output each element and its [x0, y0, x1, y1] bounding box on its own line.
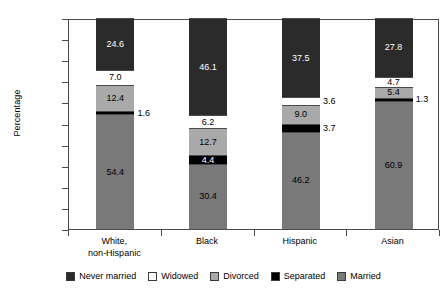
legend-label: Widowed: [161, 272, 198, 281]
bar-3[interactable]: 37.53.69.03.746.2: [282, 18, 320, 229]
legend-item-3[interactable]: Divorced: [210, 272, 259, 281]
bar-segment-value: 46.2: [292, 176, 310, 185]
bar-segment-value: 12.4: [107, 94, 125, 103]
bar-segment[interactable]: 6.2: [189, 115, 227, 128]
bar-segment-value: 6.2: [202, 118, 215, 127]
chart-legend: Never marriedWidowedDivorcedSeparatedMar…: [0, 272, 447, 281]
bar-segment[interactable]: 46.1: [189, 18, 227, 115]
legend-swatch-icon: [271, 272, 280, 281]
legend-swatch-icon: [337, 272, 346, 281]
bar-segment-value: 24.6: [107, 40, 125, 49]
bar-segment[interactable]: 37.5: [282, 18, 320, 97]
bar-segment[interactable]: 4.7: [375, 77, 413, 87]
x-category-label-4: Asian: [338, 236, 447, 248]
legend-swatch-icon: [66, 272, 75, 281]
bar-segment[interactable]: 24.6: [96, 18, 134, 70]
bar-segment-value: 54.4: [107, 168, 125, 177]
bar-segment-value: 4.7: [387, 78, 400, 87]
bar-segment[interactable]: 54.4: [96, 114, 134, 229]
bar-segment-value: 37.5: [292, 54, 310, 63]
bar-segment[interactable]: 9.0: [282, 105, 320, 124]
bar-4[interactable]: 27.84.75.41.360.9: [375, 18, 413, 229]
bar-segment-value: 12.7: [199, 138, 217, 147]
legend-label: Divorced: [223, 272, 259, 281]
bar-segment-value: 7.0: [109, 73, 122, 82]
bar-segment[interactable]: 12.4: [96, 85, 134, 111]
x-category-label-line1: Asian: [338, 236, 447, 248]
bar-1[interactable]: 24.67.012.41.654.4: [96, 18, 134, 229]
legend-label: Separated: [284, 272, 326, 281]
bar-segment[interactable]: 3.7: [282, 124, 320, 132]
bar-segment-value: 46.1: [199, 63, 217, 72]
bar-segment[interactable]: 12.7: [189, 128, 227, 155]
legend-item-1[interactable]: Never married: [66, 272, 136, 281]
bar-segment-value: 4.4: [202, 156, 215, 165]
y-axis-title: Percentage: [12, 73, 22, 153]
bar-segment-value: 30.4: [199, 192, 217, 201]
x-category-label-line2: non-Hispanic: [59, 248, 169, 260]
bar-segment-value: 9.0: [295, 110, 308, 119]
bar-segment[interactable]: 3.6: [282, 97, 320, 105]
legend-item-4[interactable]: Separated: [271, 272, 326, 281]
bar-segment-value: 1.3: [416, 95, 429, 104]
legend-swatch-icon: [210, 272, 219, 281]
bar-segment-value: 5.4: [387, 88, 400, 97]
bar-segment[interactable]: 27.8: [375, 18, 413, 77]
legend-item-2[interactable]: Widowed: [148, 272, 198, 281]
plot-area: 24.67.012.41.654.446.16.212.74.430.437.5…: [68, 19, 439, 230]
bar-segment-value: 3.7: [323, 124, 336, 133]
bar-segment[interactable]: 5.4: [375, 87, 413, 98]
bar-segment[interactable]: 60.9: [375, 101, 413, 229]
legend-swatch-icon: [148, 272, 157, 281]
bar-segment-value: 1.6: [137, 109, 150, 118]
legend-label: Married: [350, 272, 381, 281]
bar-2[interactable]: 46.16.212.74.430.4: [189, 18, 227, 229]
bar-segment-value: 3.6: [323, 97, 336, 106]
stacked-bar-chart: Percentage 100.090.080.070.060.050.040.0…: [0, 0, 447, 297]
bar-segment[interactable]: 46.2: [282, 132, 320, 229]
legend-item-5[interactable]: Married: [337, 272, 381, 281]
bar-segment[interactable]: 7.0: [96, 70, 134, 85]
bar-segment[interactable]: 4.4: [189, 155, 227, 164]
legend-label: Never married: [79, 272, 136, 281]
bar-segment-value: 27.8: [385, 43, 403, 52]
bar-segment-value: 60.9: [385, 161, 403, 170]
bar-segment[interactable]: 30.4: [189, 164, 227, 228]
